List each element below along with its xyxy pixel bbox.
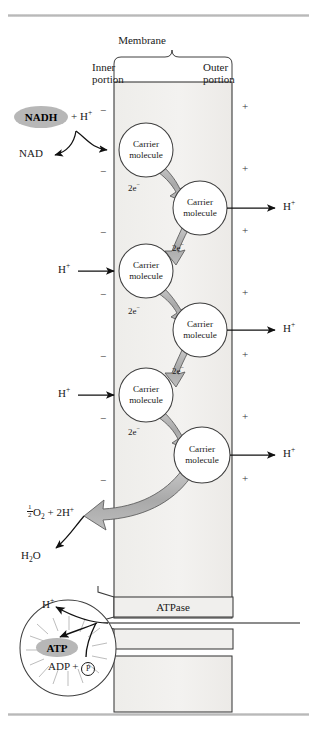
atpase-proton-label: H+ xyxy=(42,598,54,610)
oxygen-symbol: O xyxy=(33,506,41,518)
carrier-label-line1: Carrier xyxy=(133,384,159,394)
adp-phosphate-label: ADP + P xyxy=(48,660,95,676)
electron-transport-chain-diagram: Membrane Inner portion Outer portion − −… xyxy=(0,0,317,731)
electron-label-sup: − xyxy=(137,182,140,188)
carrier-label-line2: molecule xyxy=(185,455,219,465)
outer-charge-sign: + xyxy=(242,472,248,484)
carrier-label-1: Carrier molecule xyxy=(118,139,174,161)
carrier-label-3: Carrier molecule xyxy=(118,260,174,282)
nadh-badge: NADH xyxy=(14,106,68,128)
carrier-label-line1: Carrier xyxy=(187,319,213,329)
electron-label-text: 2e xyxy=(128,427,137,437)
water-formation-arrow xyxy=(56,516,84,548)
electron-label-1: 2e− xyxy=(128,183,140,193)
outer-charge-sign: + xyxy=(242,224,248,236)
electron-label-sup: − xyxy=(137,305,140,311)
carrier-label-5: Carrier molecule xyxy=(118,384,174,406)
outer-charge-sign: + xyxy=(242,410,248,422)
outer-charge-sign: + xyxy=(242,100,248,112)
proton-entry-arrows xyxy=(78,271,114,395)
nadh-label: NADH xyxy=(25,111,57,123)
proton-in-text: H xyxy=(58,387,66,399)
electron-label-text: 2e xyxy=(128,306,137,316)
carrier-label-line1: Carrier xyxy=(133,260,159,270)
carrier-label-2: Carrier molecule xyxy=(172,197,228,219)
outer-charge-sign: + xyxy=(242,162,248,174)
carrier-label-6: Carrier molecule xyxy=(174,444,230,466)
carrier-label-line2: molecule xyxy=(129,395,163,405)
inner-portion-line1: Inner xyxy=(92,61,115,73)
phosphate-circle-icon: P xyxy=(81,662,95,676)
nad-label: NAD xyxy=(19,147,43,159)
atpase-label: ATPase xyxy=(156,601,190,613)
carrier-label-line2: molecule xyxy=(129,150,163,160)
proton-in-label-2: H+ xyxy=(58,387,70,399)
inner-charge-sign: − xyxy=(100,412,106,424)
outer-portion-line2: portion xyxy=(203,73,235,85)
proton-out-sup: + xyxy=(291,198,295,207)
carrier-label-line1: Carrier xyxy=(187,197,213,207)
oxygen-reactant-label: 1 2 O2 + 2H+ xyxy=(27,504,74,519)
proton-out-text: H xyxy=(283,322,291,334)
proton-out-text: H xyxy=(283,200,291,212)
outer-portion-label: Outer portion xyxy=(203,61,235,86)
nadh-proton-label: + H+ xyxy=(71,110,92,122)
oxygen-plus-protons: + 2H xyxy=(45,506,70,518)
proton-out-label-3: H+ xyxy=(283,447,295,459)
electron-label-3: 2e− xyxy=(128,306,140,316)
electron-label-text: 2e xyxy=(172,243,181,253)
proton-out-text: H xyxy=(283,447,291,459)
proton-exit-arrows xyxy=(227,208,275,455)
electron-label-text: 2e xyxy=(128,183,137,193)
inner-charge-sign: − xyxy=(100,226,106,238)
electron-label-text: 2e xyxy=(172,366,181,376)
inner-charge-sign: − xyxy=(100,104,106,116)
atpase-channel xyxy=(96,586,300,712)
nadh-plus-h-text: + H xyxy=(71,110,88,122)
electron-label-4: 2e− xyxy=(172,366,184,376)
proton-in-text: H xyxy=(58,263,66,275)
inner-portion-label: Inner portion xyxy=(92,61,124,86)
water-o: O xyxy=(33,549,41,561)
outer-charge-sign: + xyxy=(242,348,248,360)
proton-out-sup: + xyxy=(291,320,295,329)
carrier-label-line1: Carrier xyxy=(189,444,215,454)
membrane-label: Membrane xyxy=(118,34,166,46)
proton-out-sup: + xyxy=(291,445,295,454)
inner-charge-sign: − xyxy=(100,350,106,362)
inner-portion-line2: portion xyxy=(92,73,124,85)
electron-label-5: 2e− xyxy=(128,427,140,437)
atp-label: ATP xyxy=(46,642,67,654)
electron-label-sup: − xyxy=(181,365,184,371)
nadh-plus-h-sup: + xyxy=(88,108,92,117)
carrier-label-line1: Carrier xyxy=(133,139,159,149)
proton-out-label-2: H+ xyxy=(283,322,295,334)
nadh-reaction-arrows xyxy=(55,131,107,155)
electron-label-2: 2e− xyxy=(172,243,184,253)
carrier-label-line2: molecule xyxy=(183,208,217,218)
proton-in-sup: + xyxy=(66,261,70,270)
electron-label-sup: − xyxy=(137,426,140,432)
proton-in-label-1: H+ xyxy=(58,263,70,275)
proton-in-sup: + xyxy=(66,385,70,394)
fraction-denominator: 2 xyxy=(27,512,33,519)
one-half-fraction: 1 2 xyxy=(27,504,33,519)
water-h: H xyxy=(21,549,29,561)
atpase-proton-text: H xyxy=(42,598,50,610)
inner-charge-sign: − xyxy=(100,165,106,177)
adp-text: ADP + xyxy=(48,660,81,672)
water-label: H2O xyxy=(21,549,41,561)
inner-charge-sign: − xyxy=(100,474,106,486)
outer-portion-line1: Outer xyxy=(203,61,228,73)
atpase-proton-sup: + xyxy=(50,596,54,605)
inner-charge-sign: − xyxy=(100,288,106,300)
proton-out-label-1: H+ xyxy=(283,200,295,212)
carrier-label-line2: molecule xyxy=(129,271,163,281)
oxygen-proton-sup: + xyxy=(70,505,74,514)
electron-label-sup: − xyxy=(181,242,184,248)
carrier-label-line2: molecule xyxy=(183,330,217,340)
carrier-label-4: Carrier molecule xyxy=(172,319,228,341)
atp-badge: ATP xyxy=(36,638,78,657)
outer-charge-sign: + xyxy=(242,286,248,298)
